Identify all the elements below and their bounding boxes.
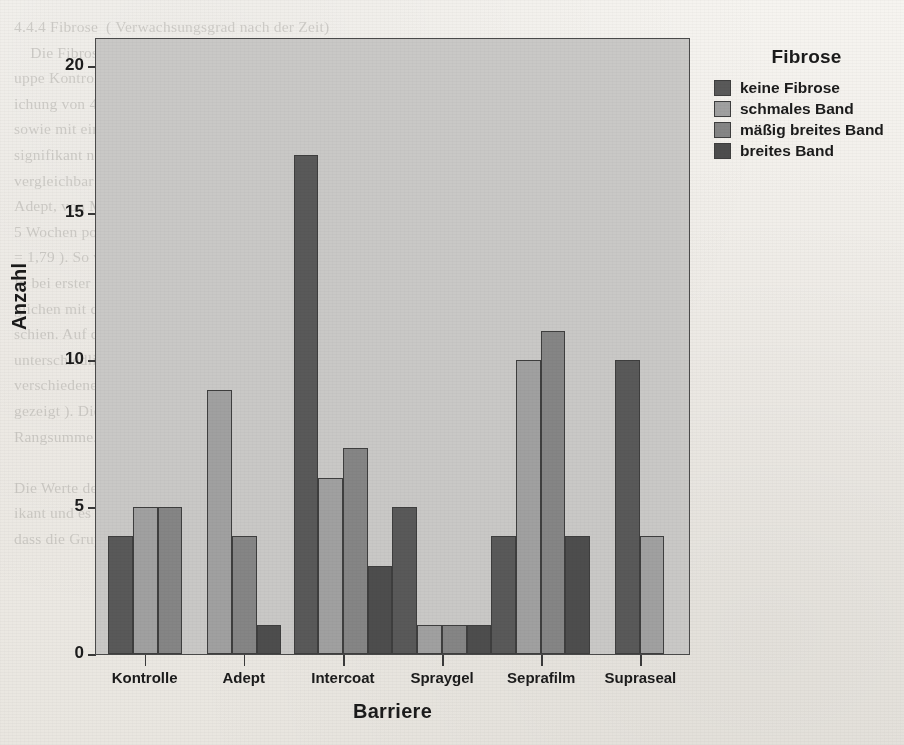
legend-label: breites Band bbox=[740, 142, 834, 160]
bar bbox=[158, 507, 183, 654]
x-tick-mark bbox=[343, 655, 345, 666]
bar-group bbox=[195, 39, 294, 654]
y-tick-label: 15 bbox=[65, 202, 84, 222]
legend-item: schmales Band bbox=[714, 100, 899, 118]
legend-label: keine Fibrose bbox=[740, 79, 840, 97]
bar-groups bbox=[96, 39, 689, 654]
legend-swatch bbox=[714, 80, 731, 96]
bar bbox=[565, 536, 590, 654]
bar bbox=[108, 536, 133, 654]
bar bbox=[318, 478, 343, 654]
bar bbox=[442, 625, 467, 654]
x-tick-label: Supraseal bbox=[591, 669, 690, 686]
bar bbox=[615, 360, 640, 654]
bar-group bbox=[294, 39, 393, 654]
legend-title: Fibrose bbox=[714, 46, 899, 68]
bar bbox=[417, 625, 442, 654]
bar bbox=[491, 536, 516, 654]
legend-item: keine Fibrose bbox=[714, 79, 899, 97]
legend-label: mäßig breites Band bbox=[740, 121, 884, 139]
bar-group bbox=[96, 39, 195, 654]
legend-item: breites Band bbox=[714, 142, 899, 160]
bar-group bbox=[392, 39, 491, 654]
plot-area bbox=[95, 38, 690, 655]
x-tick-mark bbox=[442, 655, 444, 666]
bar bbox=[467, 625, 492, 654]
bar bbox=[516, 360, 541, 654]
x-tick-mark bbox=[541, 655, 543, 666]
legend: Fibrose keine Fibroseschmales Bandmäßig … bbox=[714, 46, 899, 163]
bar bbox=[294, 155, 319, 654]
legend-swatch bbox=[714, 101, 731, 117]
bar bbox=[232, 536, 257, 654]
legend-swatch bbox=[714, 122, 731, 138]
bar bbox=[133, 507, 158, 654]
x-tick-label: Intercoat bbox=[293, 669, 392, 686]
x-tick-mark bbox=[244, 655, 246, 666]
y-tick-label: 5 bbox=[75, 496, 84, 516]
legend-items: keine Fibroseschmales Bandmäßig breites … bbox=[714, 79, 899, 160]
bar bbox=[343, 448, 368, 654]
bar-chart: Anzahl 05101520 KontrolleAdeptIntercoatS… bbox=[0, 0, 904, 745]
x-tick-label: Spraygel bbox=[393, 669, 492, 686]
x-tick-label: Adept bbox=[194, 669, 293, 686]
bar bbox=[392, 507, 417, 654]
legend-label: schmales Band bbox=[740, 100, 854, 118]
y-tick-label: 20 bbox=[65, 55, 84, 75]
y-axis-title: Anzahl bbox=[8, 263, 31, 330]
legend-swatch bbox=[714, 143, 731, 159]
y-tick-label: 0 bbox=[75, 643, 84, 663]
bar bbox=[207, 390, 232, 654]
x-tick-label: Seprafilm bbox=[492, 669, 591, 686]
bar bbox=[640, 536, 665, 654]
bar bbox=[368, 566, 393, 654]
x-tick-mark bbox=[145, 655, 147, 666]
bar bbox=[541, 331, 566, 654]
x-tick-mark bbox=[640, 655, 642, 666]
bar-group bbox=[491, 39, 590, 654]
x-axis-title: Barriere bbox=[95, 700, 690, 723]
x-tick-label: Kontrolle bbox=[95, 669, 194, 686]
bar-group bbox=[590, 39, 689, 654]
bar bbox=[257, 625, 282, 654]
y-tick-label: 10 bbox=[65, 349, 84, 369]
legend-item: mäßig breites Band bbox=[714, 121, 899, 139]
